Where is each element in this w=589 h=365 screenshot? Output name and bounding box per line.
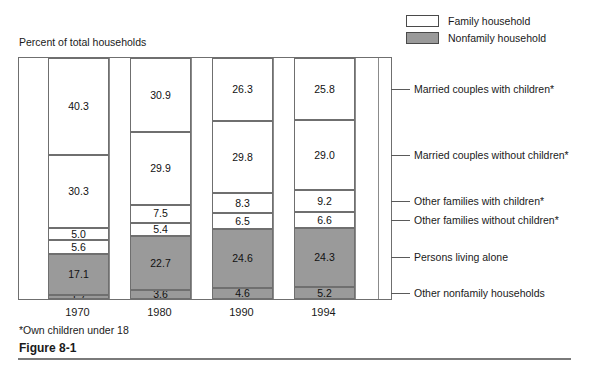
legend-swatch-nonfamily-icon bbox=[406, 32, 439, 44]
bottom-rule-divider bbox=[18, 358, 571, 360]
bar-segment-value: 30.9 bbox=[150, 90, 170, 101]
bar-segment-value: 4.6 bbox=[235, 288, 250, 299]
bar-segment-value: 24.3 bbox=[314, 252, 334, 263]
column-gutter-line bbox=[109, 58, 110, 299]
bar-segment[interactable]: 26.3 bbox=[212, 58, 273, 121]
bar-segment[interactable]: 22.7 bbox=[130, 236, 191, 291]
x-axis-label-1980: 1980 bbox=[129, 306, 190, 318]
legend-item-nonfamily: Nonfamily household bbox=[406, 30, 586, 45]
footnote: *Own children under 18 bbox=[19, 324, 129, 336]
bar-segment-value: 6.6 bbox=[317, 215, 332, 226]
bar-segment-value: 6.5 bbox=[235, 216, 250, 227]
bar-segment[interactable]: 40.3 bbox=[48, 58, 109, 155]
category-leader-tick bbox=[391, 155, 410, 156]
bar-segment-value: 8.3 bbox=[235, 198, 250, 209]
bar-segment[interactable]: 30.9 bbox=[130, 58, 191, 132]
category-leader-tick bbox=[391, 257, 410, 258]
category-label: Married couples with children* bbox=[414, 83, 554, 95]
bar-segment[interactable]: 5.6 bbox=[48, 240, 109, 254]
bar-segment[interactable]: 4.6 bbox=[212, 288, 273, 299]
chart-plot-area: 40.330.35.05.617.11.730.929.97.55.422.73… bbox=[18, 57, 392, 300]
bar-segment[interactable]: 7.5 bbox=[130, 205, 191, 223]
bar-segment-value: 29.8 bbox=[232, 152, 252, 163]
bar-segment-value: 1.7 bbox=[71, 295, 86, 299]
bar-segment-value: 25.8 bbox=[314, 84, 334, 95]
column-gutter-line bbox=[273, 58, 274, 299]
bar-segment-value: 30.3 bbox=[68, 186, 88, 197]
category-leader-tick bbox=[391, 89, 410, 90]
x-axis-label-1994: 1994 bbox=[293, 306, 354, 318]
category-label: Other families without children* bbox=[414, 214, 559, 226]
bar-segment-value: 29.0 bbox=[314, 150, 334, 161]
category-leader-tick bbox=[391, 293, 410, 294]
bar-column-1990[interactable]: 26.329.88.36.524.64.6 bbox=[212, 58, 273, 299]
bar-segment[interactable]: 29.9 bbox=[130, 132, 191, 204]
bar-segment[interactable]: 17.1 bbox=[48, 254, 109, 295]
legend-swatch-family-icon bbox=[406, 15, 439, 27]
category-label: Married couples without children* bbox=[414, 149, 569, 161]
bar-segment[interactable]: 29.0 bbox=[294, 120, 355, 190]
bar-segment[interactable]: 25.8 bbox=[294, 58, 355, 120]
category-leader-axis bbox=[391, 57, 392, 300]
bar-column-1994[interactable]: 25.829.09.26.624.35.2 bbox=[294, 58, 355, 299]
bar-segment-value: 26.3 bbox=[232, 84, 252, 95]
bar-segment[interactable]: 24.6 bbox=[212, 229, 273, 288]
column-gutter-line bbox=[191, 58, 192, 299]
bar-segment-value: 5.6 bbox=[71, 242, 86, 253]
category-label: Other nonfamily households bbox=[414, 287, 545, 299]
bar-segment[interactable]: 29.8 bbox=[212, 121, 273, 193]
category-label: Other families with children* bbox=[414, 195, 544, 207]
bar-segment-value: 7.5 bbox=[153, 208, 168, 219]
bar-segment[interactable]: 3.6 bbox=[130, 290, 191, 299]
bar-segment[interactable]: 8.3 bbox=[212, 193, 273, 213]
bar-segment-value: 5.0 bbox=[71, 229, 86, 240]
column-gutter-line bbox=[355, 58, 356, 299]
x-axis-label-1970: 1970 bbox=[47, 306, 108, 318]
x-axis-label-1990: 1990 bbox=[211, 306, 272, 318]
bar-segment[interactable]: 5.2 bbox=[294, 287, 355, 300]
legend-item-family: Family household bbox=[406, 13, 586, 28]
bar-column-1970[interactable]: 40.330.35.05.617.11.7 bbox=[48, 58, 109, 299]
legend-label-family: Family household bbox=[448, 15, 530, 27]
bar-segment-value: 3.6 bbox=[153, 290, 168, 299]
legend: Family household Nonfamily household bbox=[406, 13, 586, 47]
bar-segment[interactable]: 1.7 bbox=[48, 295, 109, 299]
category-leader-tick bbox=[391, 201, 410, 202]
bar-segment[interactable]: 6.5 bbox=[212, 213, 273, 229]
bar-segment-value: 5.4 bbox=[153, 224, 168, 235]
bar-column-1980[interactable]: 30.929.97.55.422.73.6 bbox=[130, 58, 191, 299]
bar-segment-value: 5.2 bbox=[317, 288, 332, 299]
bar-segment[interactable]: 5.4 bbox=[130, 223, 191, 236]
y-axis-caption: Percent of total households bbox=[19, 36, 146, 48]
bar-segment[interactable]: 24.3 bbox=[294, 228, 355, 287]
bar-segment-value: 40.3 bbox=[68, 101, 88, 112]
bar-segment[interactable]: 6.6 bbox=[294, 212, 355, 228]
bar-segment-value: 17.1 bbox=[68, 269, 88, 280]
legend-label-nonfamily: Nonfamily household bbox=[448, 32, 546, 44]
category-label: Persons living alone bbox=[414, 251, 508, 263]
bar-segment[interactable]: 9.2 bbox=[294, 190, 355, 212]
bar-segment-value: 24.6 bbox=[232, 253, 252, 264]
bar-segment-value: 22.7 bbox=[150, 258, 170, 269]
bar-segment[interactable]: 5.0 bbox=[48, 228, 109, 240]
bar-segment-value: 9.2 bbox=[317, 196, 332, 207]
bar-segment-value: 29.9 bbox=[150, 163, 170, 174]
category-leader-tick bbox=[391, 220, 410, 221]
column-gutter-line bbox=[378, 58, 379, 299]
figure-caption: Figure 8-1 bbox=[19, 341, 76, 355]
bar-segment[interactable]: 30.3 bbox=[48, 155, 109, 228]
